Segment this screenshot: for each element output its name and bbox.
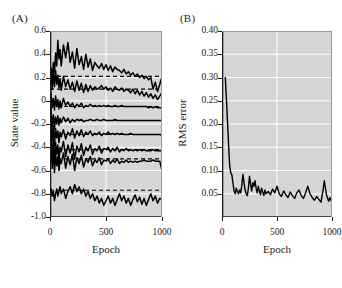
panel-b-y-tick-labels: 0.400.350.300.250.200.150.100.05 bbox=[178, 31, 218, 217]
panel-b-x-tickmark-1 bbox=[277, 217, 278, 221]
panel-a-x-axis-title: Epoch bbox=[92, 243, 120, 255]
panel-a-y-tick-1: 0.4 bbox=[34, 50, 46, 60]
panel-b-y-tick-6: 0.10 bbox=[201, 166, 218, 176]
panel-a-y-tick-6: -0.6 bbox=[31, 166, 46, 176]
panel-b-y-tick-4: 0.20 bbox=[201, 119, 218, 129]
panel-b-y-tick-0: 0.40 bbox=[201, 26, 218, 36]
panel-a-y-tick-7: -0.8 bbox=[31, 189, 46, 199]
panel-b-y-tick-2: 0.30 bbox=[201, 73, 218, 83]
panel-a: (A) State value 0.60.40.20-0.2-0.4-0.6-0… bbox=[0, 0, 170, 288]
panel-a-x-tick-1: 500 bbox=[99, 228, 113, 238]
panel-a-x-tickmark-1 bbox=[106, 217, 107, 221]
panel-b-y-tick-7: 0.05 bbox=[201, 189, 218, 199]
panel-a-x-tickmark-0 bbox=[50, 217, 51, 221]
panel-a-y-tick-2: 0.2 bbox=[34, 73, 46, 83]
panel-a-label: (A) bbox=[12, 12, 28, 24]
panel-a-x-tick-0: 0 bbox=[48, 228, 53, 238]
panel-b-x-tick-2: 1000 bbox=[323, 228, 342, 238]
panel-b-y-tick-5: 0.15 bbox=[201, 143, 218, 153]
panel-b-plot-wrap bbox=[222, 31, 332, 217]
panel-b: (B) RMS error 0.400.350.300.250.200.150.… bbox=[170, 0, 340, 288]
panel-b-x-tick-0: 0 bbox=[220, 228, 225, 238]
panel-b-x-tick-1: 500 bbox=[270, 228, 284, 238]
panel-b-label: (B) bbox=[180, 12, 195, 24]
panel-b-y-tick-1: 0.35 bbox=[201, 50, 218, 60]
panel-b-x-tick-labels: 05001000 bbox=[222, 222, 332, 234]
panel-a-x-tickmark-2 bbox=[162, 217, 163, 221]
data-line-series-1 bbox=[225, 78, 332, 203]
panel-a-x-tick-labels: 05001000 bbox=[50, 222, 162, 234]
panel-a-y-tick-5: -0.4 bbox=[31, 143, 46, 153]
panel-b-x-tickmark-2 bbox=[332, 217, 333, 221]
panel-a-plot-wrap bbox=[50, 31, 162, 217]
panel-a-x-tick-2: 1000 bbox=[153, 228, 172, 238]
panel-b-plot-area bbox=[222, 31, 332, 217]
panel-a-plot-area bbox=[50, 31, 162, 217]
panel-a-y-tick-4: -0.2 bbox=[31, 119, 46, 129]
panel-b-x-tickmark-0 bbox=[222, 217, 223, 221]
panel-a-y-tick-0: 0.6 bbox=[34, 26, 46, 36]
panel-b-y-tick-3: 0.25 bbox=[201, 96, 218, 106]
panel-a-y-tick-labels: 0.60.40.20-0.2-0.4-0.6-0.8-1.0 bbox=[8, 31, 46, 217]
panel-a-y-tick-8: -1.0 bbox=[31, 212, 46, 222]
panel-b-x-axis-title: Epoch bbox=[263, 243, 291, 255]
